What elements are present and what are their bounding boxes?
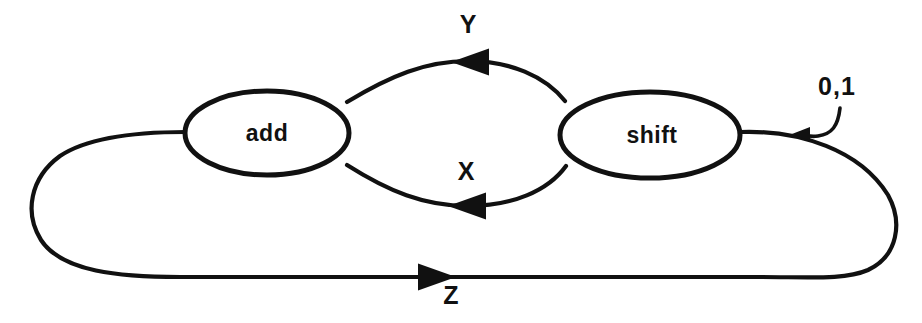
node-add[interactable]: add	[185, 91, 349, 175]
edge-y-path	[347, 61, 565, 102]
edge-x-arrowhead-icon	[448, 193, 486, 220]
node-add-label: add	[246, 120, 288, 146]
edge-y-group	[347, 49, 565, 103]
edge-x-group	[347, 165, 566, 220]
annotation-input-symbols-label: 0,1	[818, 72, 856, 100]
edge-y-arrowhead-icon	[451, 49, 489, 76]
edge-y-label: Y	[460, 10, 477, 38]
state-diagram-canvas: add shift Y X Z 0,1	[0, 0, 922, 323]
node-shift-label: shift	[626, 122, 677, 148]
annotation-input-symbols-group	[792, 108, 840, 141]
edge-x-label: X	[458, 157, 475, 185]
edge-z-label: Z	[443, 281, 458, 309]
node-shift[interactable]: shift	[560, 92, 740, 178]
edge-x-path	[347, 165, 566, 206]
state-diagram-svg: add shift Y X Z 0,1	[0, 0, 922, 323]
